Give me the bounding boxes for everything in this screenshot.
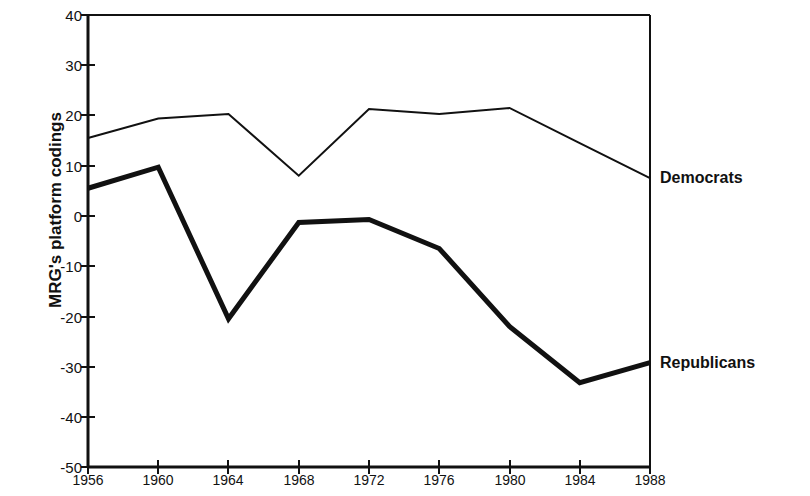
axis-frame	[88, 15, 650, 467]
series-label-republicans: Republicans	[660, 354, 755, 372]
line-chart-figure: MRG's platform codings 40 30 20 10 0 -10…	[0, 0, 810, 496]
series-label-democrats: Democrats	[660, 169, 743, 187]
series-line-republicans	[88, 167, 650, 382]
series-line-democrats	[88, 108, 650, 178]
plot-area	[0, 0, 810, 496]
